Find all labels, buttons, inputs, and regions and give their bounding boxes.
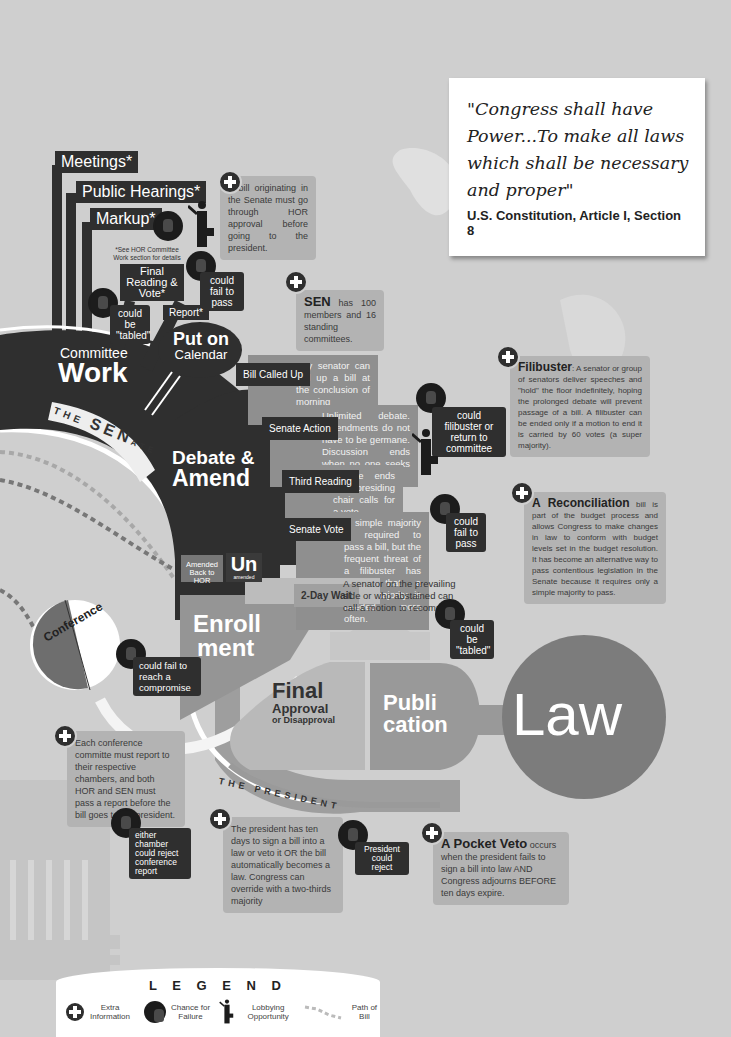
info-sen-members: SEN has 100 members and 16 standing comm… [296, 290, 384, 351]
tabled-note-2: could be "tabled" [450, 620, 494, 659]
final-text: Final [272, 680, 335, 702]
filibuster-text: : A senator or group of senators deliver… [518, 364, 642, 450]
amended-back-to-hor: Amended Back to HOR [181, 555, 223, 582]
arrow-path-icon [303, 1003, 343, 1021]
law-title: Law [512, 680, 622, 750]
plus-circle-icon[interactable] [284, 270, 308, 294]
ment-text: ment [193, 636, 261, 660]
legend-items: Extra Information Chance for Failure Lob… [56, 999, 380, 1025]
legend-item: Lobbying Opportunity [219, 999, 303, 1025]
info-reconciliation: A Reconciliation bill is part of the bud… [524, 492, 666, 604]
legend: L E G E N D Extra Information Chance for… [56, 968, 380, 1037]
legend-title: L E G E N D [56, 978, 380, 993]
committee-footnote: *See HOR Committee Work section for deta… [112, 246, 182, 262]
vote-fail-note: could fail to pass [446, 513, 486, 552]
plus-circle-icon[interactable] [53, 724, 77, 748]
debate-line2: Amend [172, 467, 254, 490]
final-reading-vote-tab: Final Reading & Vote* [120, 264, 184, 301]
enrollment-title: Enroll ment [193, 612, 261, 660]
lobbyist-icon [219, 999, 235, 1025]
tab-public-hearings: Public Hearings* [76, 181, 206, 203]
approval-text: Approval [272, 702, 335, 715]
pocket-veto-bold: A Pocket Veto [441, 836, 527, 851]
step-label-bill-called-up: Bill Called Up [236, 363, 310, 386]
legend-item: Extra Information [66, 1003, 145, 1021]
info-president: The president has ten days to sign a bil… [223, 817, 343, 913]
report-tab: Report* [163, 305, 209, 320]
step-label-senate-vote: Senate Vote [282, 518, 351, 541]
tabled-note: could be "tabled" [110, 305, 150, 344]
plus-circle-icon[interactable] [218, 170, 242, 194]
unamended-box: Un amended [226, 553, 262, 582]
un-text: Un [226, 553, 262, 575]
legend-label: Chance for Failure [171, 1003, 211, 1021]
put-on-calendar: Put on Calendar [168, 330, 234, 362]
filibuster-bold: Filibuster [518, 360, 572, 374]
legend-label: Extra Information [90, 1003, 130, 1021]
burst-hand-icon [145, 1002, 165, 1022]
cation-text: cation [383, 714, 448, 736]
plus-circle-icon[interactable] [510, 481, 534, 505]
quote-text: "Congress shall have Power...To make all… [467, 96, 691, 204]
plus-circle-icon [66, 1003, 84, 1021]
info-filibuster: Filibuster: A senator or group of senato… [510, 356, 650, 457]
legend-item: Path of Bill [303, 1003, 380, 1021]
legend-item: Chance for Failure [145, 1002, 220, 1022]
work-label: Work [58, 357, 128, 389]
tab-markup: Markup* [90, 208, 162, 230]
step-label-senate-action: Senate Action [262, 417, 338, 440]
debate-amend-title: Debate & Amend [172, 448, 254, 490]
filibuster-return-note: could filibuster or return to committee [432, 407, 506, 457]
legend-label: Path of Bill [349, 1003, 379, 1021]
constitution-quote-card: "Congress shall have Power...To make all… [449, 78, 705, 256]
president-reject-note: President could reject [355, 842, 409, 875]
publi-text: Publi [383, 692, 448, 714]
legend-label: Lobbying Opportunity [243, 1003, 293, 1021]
failure-burst-icon [155, 213, 181, 239]
quote-citation: U.S. Constitution, Article I, Section 8 [467, 208, 691, 238]
final-approval-title: Final Approval or Disapproval [272, 680, 335, 726]
step-label-third-reading: Third Reading [282, 470, 359, 493]
plus-circle-icon[interactable] [208, 807, 232, 831]
compromise-fail-note: could fail to reach a compromise [133, 657, 201, 696]
lobbyist-icon [412, 428, 440, 478]
tab-meetings: Meetings* [55, 151, 138, 173]
unamended-text: amended [226, 575, 262, 580]
publication-title: Publi cation [383, 692, 448, 736]
sen-bold: SEN [304, 294, 331, 309]
calendar-line2: Calendar [168, 348, 234, 362]
calendar-line1: Put on [168, 330, 234, 348]
reconciliation-bold: A Reconciliation [532, 496, 630, 510]
plus-circle-icon[interactable] [496, 345, 520, 369]
enroll-text: Enroll [193, 612, 261, 636]
reconciliation-text: bill is part of the budget process and a… [532, 500, 658, 597]
disapproval-text: or Disapproval [272, 715, 335, 726]
lobbyist-icon [188, 200, 216, 250]
info-pocket-veto: A Pocket Veto occurs when the president … [433, 832, 569, 905]
senate-process-infographic: "Congress shall have Power...To make all… [0, 0, 731, 1037]
conference-reject-note: either chamber could reject conference r… [129, 828, 191, 879]
plus-circle-icon[interactable] [420, 821, 444, 845]
